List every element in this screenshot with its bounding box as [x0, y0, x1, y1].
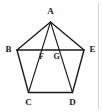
vertex-label-a: A: [47, 6, 54, 16]
point-label-f: F: [39, 52, 44, 61]
pentagon-diagram-canvas: A B C D E F G: [0, 0, 102, 112]
vertex-label-c: C: [25, 97, 32, 107]
vertex-label-b: B: [5, 44, 11, 54]
figure-background: [0, 0, 102, 112]
vertex-label-e: E: [89, 44, 95, 54]
point-label-g: G: [53, 52, 59, 61]
vertex-label-d: D: [69, 97, 76, 107]
geometry-figure-container: A B C D E F G: [0, 0, 102, 112]
